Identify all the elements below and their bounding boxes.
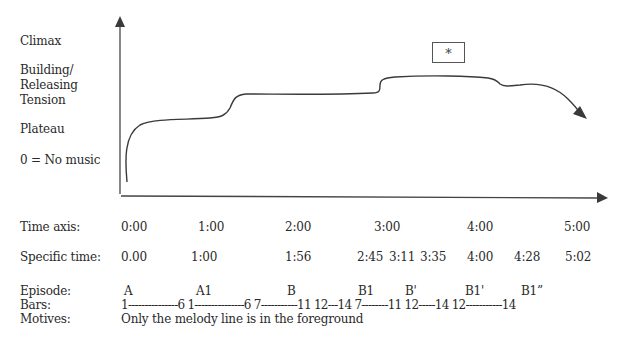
specific-time-value: 3:35 — [420, 250, 446, 264]
specific-time-value: 5:02 — [565, 250, 591, 264]
curve-end-arrow-icon — [573, 106, 587, 119]
bars-sequence: 1---------------6 1---------------6 7---… — [121, 298, 516, 312]
motives-text: Only the melody line is in the foregroun… — [121, 312, 363, 326]
motives-label: Motives: — [20, 312, 71, 326]
x-axis — [121, 192, 608, 203]
x-axis-arrow-icon — [597, 192, 608, 203]
specific-time-value: 1:56 — [285, 250, 311, 264]
episode-value: A1 — [196, 284, 212, 298]
time-axis-tick: 0:00 — [121, 220, 147, 234]
time-axis-tick: 3:00 — [374, 220, 400, 234]
episode-value: B1 — [358, 284, 374, 298]
y-axis — [115, 16, 125, 194]
time-axis-label: Time axis: — [20, 220, 80, 234]
time-axis-tick: 1:00 — [198, 220, 224, 234]
specific-time-label: Specific time: — [20, 250, 101, 264]
intensity-curve — [126, 76, 580, 182]
episode-value: B1” — [521, 284, 543, 298]
time-axis-tick: 5:00 — [564, 220, 590, 234]
specific-time-value: 2:45 — [357, 250, 383, 264]
episode-label: Episode: — [20, 284, 71, 298]
episode-value: B — [287, 284, 296, 298]
episode-value: B' — [405, 284, 417, 298]
specific-time-value: 4:28 — [514, 250, 540, 264]
time-axis-tick: 2:00 — [285, 220, 311, 234]
specific-time-value: 0.00 — [121, 250, 147, 264]
y-axis-arrow-icon — [115, 16, 125, 27]
specific-time-value: 4:00 — [467, 250, 493, 264]
episode-value: B1' — [465, 284, 484, 298]
specific-time-value: 3:11 — [389, 250, 415, 264]
episode-value: A — [124, 284, 132, 298]
specific-time-value: 1:00 — [191, 250, 217, 264]
time-axis-tick: 4:00 — [467, 220, 493, 234]
star-annotation-box: * — [432, 42, 465, 63]
bars-label: Bars: — [20, 298, 51, 312]
